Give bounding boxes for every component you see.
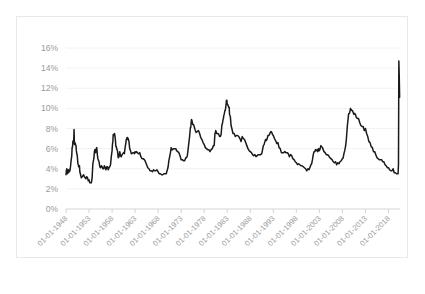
y-axis-tick-label: 0%	[46, 204, 59, 214]
y-axis-tick-labels: 0%2%4%6%8%10%12%14%16%	[41, 43, 58, 214]
y-axis-tick-label: 2%	[46, 184, 59, 194]
x-axis-tick-marks	[66, 209, 388, 213]
gridlines	[66, 48, 400, 189]
x-axis-tick-labels: 01-01-194801-01-195301-01-195801-01-1963…	[36, 214, 392, 248]
y-axis-tick-label: 8%	[46, 124, 59, 134]
y-axis-tick-label: 16%	[41, 43, 58, 53]
unemployment-rate-line-chart: 0%2%4%6%8%10%12%14%16% 01-01-194801-01-1…	[0, 0, 425, 294]
y-axis-tick-label: 6%	[46, 144, 59, 154]
y-axis-tick-label: 12%	[41, 83, 58, 93]
y-axis-tick-label: 10%	[41, 103, 58, 113]
y-axis-tick-label: 14%	[41, 63, 58, 73]
unemployment-rate-series	[66, 61, 400, 183]
y-axis-tick-label: 4%	[46, 164, 59, 174]
